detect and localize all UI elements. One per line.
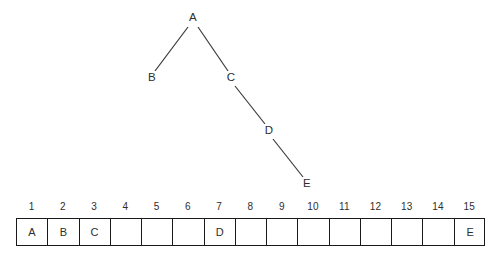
- tree-edge-d-e: [273, 139, 303, 177]
- array-cell: [298, 219, 329, 245]
- array-index: 9: [266, 200, 297, 218]
- array-index: 11: [329, 200, 360, 218]
- tree-array-figure: A B C D E 1 2 3 4 5 6 7 8 9 10 11 12 13 …: [0, 0, 498, 257]
- array-cell: A: [17, 219, 48, 245]
- array-index: 14: [422, 200, 453, 218]
- array-cell: [111, 219, 142, 245]
- array-cell: D: [205, 219, 236, 245]
- array-index: 2: [47, 200, 78, 218]
- array-cell: [267, 219, 298, 245]
- tree-edge-a-c: [198, 27, 228, 71]
- array-cell: [173, 219, 204, 245]
- array-representation: 1 2 3 4 5 6 7 8 9 10 11 12 13 14 15 A B …: [16, 200, 485, 246]
- tree-node-c: C: [225, 71, 238, 85]
- tree-node-a: A: [187, 11, 199, 25]
- array-cell: E: [455, 219, 486, 245]
- array-index: 15: [454, 200, 485, 218]
- tree-node-b: B: [146, 71, 158, 85]
- array-index: 13: [391, 200, 422, 218]
- array-cell: [330, 219, 361, 245]
- tree-edge-c-d: [235, 86, 265, 124]
- array-cell: [392, 219, 423, 245]
- array-index: 12: [360, 200, 391, 218]
- array-cell: [361, 219, 392, 245]
- array-index: 10: [297, 200, 328, 218]
- tree-node-e: E: [301, 177, 313, 191]
- array-index-row: 1 2 3 4 5 6 7 8 9 10 11 12 13 14 15: [16, 200, 485, 218]
- array-cell: [142, 219, 173, 245]
- tree-edge-a-b: [155, 27, 188, 71]
- array-index: 7: [204, 200, 235, 218]
- array-index: 4: [110, 200, 141, 218]
- array-index: 8: [235, 200, 266, 218]
- array-index: 3: [79, 200, 110, 218]
- array-cell: B: [48, 219, 79, 245]
- array-index: 6: [172, 200, 203, 218]
- array-cell: [236, 219, 267, 245]
- tree-node-d: D: [263, 124, 276, 138]
- array-cell: C: [80, 219, 111, 245]
- array-cells-row: A B C D E: [16, 218, 485, 246]
- array-index: 5: [141, 200, 172, 218]
- tree-edges: [0, 0, 498, 200]
- array-index: 1: [16, 200, 47, 218]
- array-cell: [423, 219, 454, 245]
